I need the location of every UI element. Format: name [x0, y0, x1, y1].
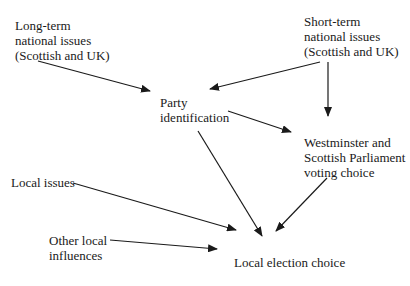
node-label-line: Long-term — [15, 18, 110, 33]
node-party-identification: Party identification — [160, 95, 229, 125]
node-label-line: voting choice — [304, 165, 405, 180]
node-local-issues: Local issues — [11, 175, 75, 190]
arrow-party-to-westminster — [228, 111, 291, 132]
node-label-line: Party — [160, 95, 229, 110]
node-label-line: Other local — [49, 233, 107, 248]
arrow-localissues-to-localelection — [73, 183, 236, 230]
node-label-line: (Scottish and UK) — [15, 48, 110, 63]
node-label-line: national issues — [15, 33, 110, 48]
arrow-westminster-to-localelection — [276, 178, 327, 231]
node-label-line: Scottish Parliament — [304, 150, 405, 165]
node-label-line: identification — [160, 110, 229, 125]
node-westminster-scottish-parliament-voting: Westminster and Scottish Parliament voti… — [304, 135, 405, 180]
node-label-line: national issues — [304, 29, 399, 44]
node-short-term-national-issues: Short-term national issues (Scottish and… — [304, 14, 399, 59]
arrow-longterm-to-party — [38, 61, 150, 91]
arrow-party-to-localelection — [198, 131, 262, 236]
node-other-local-influences: Other local influences — [49, 233, 107, 263]
node-label-line: (Scottish and UK) — [304, 44, 399, 59]
arrow-shortterm-to-party — [210, 62, 320, 89]
node-label-line: Westminster and — [304, 135, 405, 150]
node-label-line: Local issues — [11, 175, 75, 190]
node-local-election-choice: Local election choice — [234, 255, 345, 270]
node-label-line: Local election choice — [234, 255, 345, 270]
node-label-line: influences — [49, 248, 107, 263]
arrow-otherlocal-to-localelection — [110, 240, 217, 249]
node-long-term-national-issues: Long-term national issues (Scottish and … — [15, 18, 110, 63]
node-label-line: Short-term — [304, 14, 399, 29]
